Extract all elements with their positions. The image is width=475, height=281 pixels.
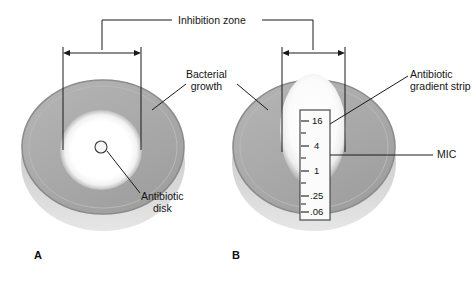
plate-b-arrowhead-right [338,50,345,56]
diagram-canvas [0,0,475,281]
scale-value-006: .06 [310,206,323,217]
plate-b-arrowhead-left [282,50,289,56]
label-antibiotic-disk-line2: disk [141,202,184,214]
scale-value-16: 16 [312,115,323,126]
plate-a-arrowhead-left [63,50,70,56]
figure-container: Inhibition zone Bacterial growth Antibio… [0,0,475,281]
label-bacterial-growth-line2: growth [186,80,227,92]
scale-value-1: 1 [314,165,319,176]
label-inhibition-zone: Inhibition zone [178,14,246,26]
scale-value-4: 4 [314,140,319,151]
label-antibiotic-disk-line1: Antibiotic [141,190,184,202]
label-antibiotic-disk: Antibiotic disk [141,190,184,214]
label-bacterial-growth-line1: Bacterial [186,68,227,80]
label-gradient-strip-line2: gradient strip [410,80,471,92]
plate-a-arrowhead-right [134,50,141,56]
label-gradient-strip-line1: Antibiotic [410,68,471,80]
panel-letter-b: B [232,249,240,261]
panel-letter-a: A [34,249,42,261]
plate-b-group [232,47,433,231]
label-gradient-strip: Antibiotic gradient strip [410,68,471,92]
label-mic: MIC [437,148,456,160]
scale-value-025: .25 [310,190,323,201]
antibiotic-disk [95,141,107,153]
label-bacterial-growth: Bacterial growth [186,68,227,92]
